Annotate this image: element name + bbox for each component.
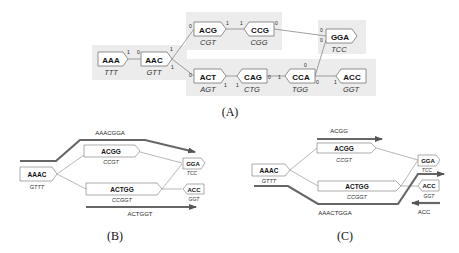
svg-text:0: 0 [316, 79, 319, 85]
path-label: ACGG [330, 128, 348, 134]
svg-text:0: 0 [268, 74, 271, 80]
node-label: CCA [292, 73, 310, 82]
node-label: AAA [102, 56, 120, 65]
svg-text:CCGGT: CCGGT [347, 194, 368, 200]
node-acgg: ACGG CCGT [84, 145, 140, 165]
svg-text:1: 1 [224, 82, 227, 88]
node-sub: TGG [292, 85, 308, 94]
svg-text:ACC: ACC [423, 183, 437, 189]
panel-c: ACGG AAACTGGA AAAC GTTT ACGG CCGT ACTGG … [252, 128, 444, 243]
node-label: GGA [331, 33, 349, 42]
node-label: ACG [199, 26, 217, 35]
svg-text:TCC: TCC [422, 167, 433, 173]
panel-a: AAA TTT AAC GTT ACG CGT CCG CGG GGA TCC … [92, 12, 376, 119]
svg-text:GGT: GGT [424, 193, 436, 199]
path-label: AAACTGGA [318, 210, 351, 216]
node-aaac: AAAC GTTT [20, 167, 57, 190]
node-acc: ACC GGT [183, 184, 204, 202]
svg-text:1: 1 [236, 82, 239, 88]
svg-text:CCGGT: CCGGT [112, 197, 133, 203]
svg-text:1: 1 [170, 46, 173, 52]
svg-text:1: 1 [334, 79, 337, 85]
svg-text:ACC: ACC [188, 187, 202, 193]
svg-text:AAAC: AAAC [28, 171, 47, 178]
node-label: CCG [251, 26, 269, 35]
node-sub: TTT [104, 68, 119, 77]
node-label: AAC [145, 56, 163, 65]
svg-text:TCC: TCC [187, 170, 198, 176]
svg-text:GGA: GGA [186, 161, 200, 167]
node-sub: CTG [244, 85, 260, 94]
svg-text:1: 1 [127, 49, 130, 55]
svg-text:0: 0 [137, 49, 140, 55]
node-sub: TCC [331, 45, 347, 54]
svg-text:GGA: GGA [421, 158, 435, 164]
svg-text:ACGG: ACGG [334, 145, 354, 152]
svg-text:0: 0 [320, 27, 323, 33]
node-sub: AGT [199, 85, 217, 94]
svg-text:ACTGG: ACTGG [110, 186, 133, 193]
node-gga: GGA TCC [183, 158, 205, 176]
node-label: CAG [244, 73, 262, 82]
svg-text:0: 0 [304, 62, 307, 68]
svg-text:1: 1 [171, 64, 174, 70]
svg-text:0: 0 [189, 23, 192, 29]
edges-c [290, 148, 418, 186]
caption-a: (A) [222, 105, 239, 119]
node-label: ACC [343, 73, 361, 82]
svg-text:0: 0 [189, 72, 192, 78]
svg-text:AAAC: AAAC [260, 167, 279, 174]
node-actgg: ACTGG CCGGT [86, 183, 162, 203]
svg-text:ACTGG: ACTGG [345, 183, 368, 190]
assembly-graph-figure: AAA TTT AAC GTT ACG CGT CCG CGG GGA TCC … [0, 0, 459, 253]
path-label: ACTGGT [128, 211, 153, 217]
svg-text:GGT: GGT [189, 196, 201, 202]
svg-text:GTTT: GTTT [262, 178, 277, 184]
node-acc: ACC GGT [418, 180, 439, 199]
svg-text:1: 1 [226, 20, 229, 26]
node-aaac: AAAC GTTT [252, 164, 290, 184]
panel-b: AAACGGA AAAC GTTT ACGG CCGT ACTGG CCGGT [20, 130, 205, 243]
svg-text:GTTT: GTTT [30, 184, 45, 190]
node-sub: CGG [250, 38, 267, 47]
node-acgg: ACGG CCGT [317, 143, 376, 163]
svg-text:1: 1 [240, 20, 243, 26]
node-sub: CGT [200, 38, 217, 47]
svg-text:1: 1 [278, 74, 281, 80]
svg-text:ACGG: ACGG [101, 148, 121, 155]
path-label: ACC [418, 209, 431, 215]
node-actgg: ACTGG CCGGT [318, 181, 401, 200]
svg-text:CCGT: CCGT [336, 157, 352, 163]
node-label: ACT [200, 73, 217, 82]
svg-text:CCGT: CCGT [103, 159, 119, 165]
svg-text:0: 0 [320, 37, 323, 43]
caption-c: (C) [337, 229, 353, 243]
node-sub: GTT [147, 68, 163, 77]
caption-b: (B) [107, 229, 123, 243]
node-gga: GGA TCC [418, 155, 440, 173]
node-sub: GGT [343, 85, 361, 94]
svg-text:0: 0 [275, 20, 278, 26]
path-label: AAACGGA [95, 130, 125, 136]
